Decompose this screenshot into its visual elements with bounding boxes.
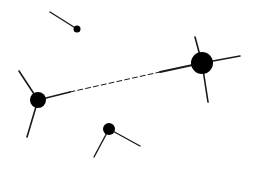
node-right-large xyxy=(191,52,213,74)
stub-top-small-edge xyxy=(50,12,77,29)
node-top-small xyxy=(74,26,81,33)
edges-layer xyxy=(19,12,240,157)
network-diagram xyxy=(0,0,257,172)
node-bottom-small xyxy=(103,123,115,135)
node-left-medium xyxy=(30,92,46,108)
diagram-canvas xyxy=(0,0,257,172)
link-dashed-dashed-edge xyxy=(70,72,160,92)
